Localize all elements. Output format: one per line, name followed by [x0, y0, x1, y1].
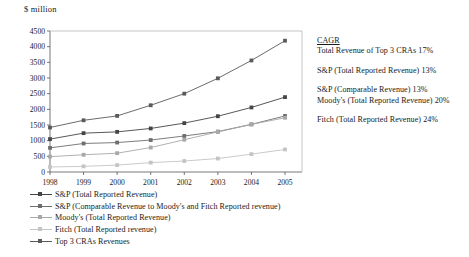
legend-item-moodys: Moody's (Total Reported Revenue)	[30, 212, 330, 224]
annotation-cagr-top3: CAGR Total Revenue of Top 3 CRAs 17%	[317, 36, 467, 57]
annotation-sp-total-cagr: S&P (Total Reported Revenue) 13%	[317, 66, 467, 76]
svg-text:0: 0	[41, 168, 45, 177]
svg-text:2000: 2000	[30, 105, 45, 114]
svg-text:2005: 2005	[277, 178, 292, 187]
svg-text:2000: 2000	[110, 178, 125, 187]
legend-item-top3-cras: Top 3 CRAs Revenues	[30, 235, 330, 247]
svg-text:3000: 3000	[30, 74, 45, 83]
annotation-sp-total: S&P (Total Reported Revenue) 13%	[317, 66, 467, 76]
annotation-moodys-cagr: Moody's (Total Reported Revenue) 20%	[317, 96, 467, 106]
svg-text:500: 500	[34, 152, 46, 161]
svg-text:2002: 2002	[177, 178, 192, 187]
legend-item-sp-total: S&P (Total Reported Revenue)	[30, 189, 330, 201]
plot-frame	[50, 31, 302, 172]
legend-marker-sp-total	[30, 189, 52, 200]
svg-text:2500: 2500	[30, 89, 45, 98]
legend-label-moodys: Moody's (Total Reported Revenue)	[55, 212, 171, 223]
annotation-sp-comparable-moodys: S&P (Comparable Revenue) 13% Moody's (To…	[317, 85, 467, 106]
annotation-cagr-title: CAGR	[317, 36, 467, 46]
legend-label-sp-comparable: S&P (Comparable Revenue to Moody's and F…	[55, 201, 280, 212]
cagr-annotations: CAGR Total Revenue of Top 3 CRAs 17% S&P…	[317, 36, 467, 125]
annotation-top3-cagr: Total Revenue of Top 3 CRAs 17%	[317, 46, 467, 56]
svg-text:1500: 1500	[30, 121, 45, 130]
annotation-fitch: Fitch (Total Reported Revenue) 24%	[317, 115, 467, 125]
legend-label-fitch: Fitch (Total Reported revenue)	[55, 224, 156, 235]
legend-marker-moodys	[30, 212, 52, 223]
legend-label-top3-cras: Top 3 CRAs Revenues	[55, 236, 130, 247]
series-group	[48, 39, 287, 169]
y-axis-ticks: 050010001500200025003000350040004500	[30, 27, 50, 177]
legend-marker-fitch	[30, 224, 52, 235]
legend-marker-top3-cras	[30, 236, 52, 247]
legend-item-sp-comparable: S&P (Comparable Revenue to Moody's and F…	[30, 201, 330, 213]
annotation-fitch-cagr: Fitch (Total Reported Revenue) 24%	[317, 115, 467, 125]
svg-text:1000: 1000	[30, 136, 45, 145]
annotation-sp-comparable-cagr: S&P (Comparable Revenue) 13%	[317, 85, 467, 95]
svg-text:4500: 4500	[30, 27, 45, 36]
legend-label-sp-total: S&P (Total Reported Revenue)	[55, 189, 157, 200]
svg-text:2004: 2004	[244, 178, 259, 187]
svg-text:2001: 2001	[143, 178, 158, 187]
revenue-line-chart: $ million 050010001500200025003000350040…	[0, 0, 469, 257]
legend-item-fitch: Fitch (Total Reported revenue)	[30, 224, 330, 236]
svg-text:3500: 3500	[30, 58, 45, 67]
x-axis-ticks: 19981999200020012002200320042005	[42, 172, 292, 187]
svg-text:4000: 4000	[30, 42, 45, 51]
svg-text:1998: 1998	[42, 178, 57, 187]
legend-marker-sp-comparable	[30, 201, 52, 212]
chart-legend: S&P (Total Reported Revenue) S&P (Compar…	[30, 189, 330, 247]
svg-text:2003: 2003	[210, 178, 225, 187]
svg-text:1999: 1999	[76, 178, 91, 187]
